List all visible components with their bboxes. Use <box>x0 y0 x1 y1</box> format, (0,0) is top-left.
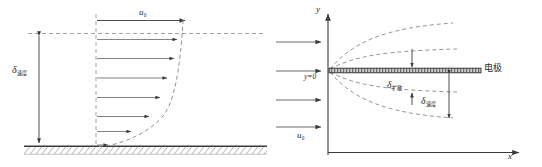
inflow-velocity-label: u0 <box>297 131 304 140</box>
diffusion-layer-label: δ扩散 <box>387 81 401 91</box>
electrode-bar <box>329 68 481 73</box>
origin-label: y=0 <box>304 73 316 81</box>
velocity-profile-arrows <box>97 40 177 146</box>
velocity-boundary-thickness-label: δ速度 <box>12 65 27 75</box>
axes <box>328 14 519 155</box>
electrode-label: 电极 <box>484 64 502 73</box>
figure-root: u0 δ速度 <box>0 0 542 167</box>
right-diagram-svg <box>271 0 542 167</box>
right-panel: y x y=0 电极 u0 δ扩散 δ速度 <box>271 0 542 167</box>
freestream-velocity-label: u0 <box>139 8 146 17</box>
y-axis-label: y <box>316 5 320 14</box>
velocity-layer-label: δ速度 <box>421 97 435 107</box>
inflow-arrows <box>276 42 321 127</box>
left-panel: u0 δ速度 <box>0 0 271 167</box>
left-diagram-svg <box>0 0 271 167</box>
x-axis-label: x <box>508 152 512 161</box>
ground-wall <box>24 146 267 154</box>
